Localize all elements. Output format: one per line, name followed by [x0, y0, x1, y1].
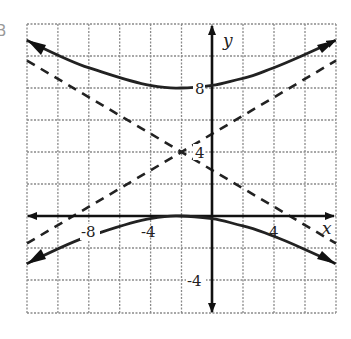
- arrowhead-lower-left: [27, 249, 46, 264]
- tick-label-y-neg4: -4: [187, 272, 202, 290]
- arrowhead-upper-left: [27, 40, 46, 55]
- tick-label-y-8: 8: [195, 80, 205, 98]
- tick-label-x-4: 4: [269, 223, 279, 241]
- arrowhead-upper-right: [317, 40, 336, 53]
- tick-label-y-4: 4: [195, 144, 205, 162]
- part-label: B: [0, 22, 6, 40]
- x-axis-label: x: [322, 218, 332, 238]
- arrowhead-lower-right: [317, 251, 336, 264]
- y-axis-label: y: [222, 30, 233, 50]
- tick-label-x-neg8: -8: [81, 223, 96, 241]
- tick-label-x-neg4: -4: [141, 223, 156, 241]
- hyperbola-graph: B: [0, 0, 351, 339]
- grid: [27, 24, 336, 313]
